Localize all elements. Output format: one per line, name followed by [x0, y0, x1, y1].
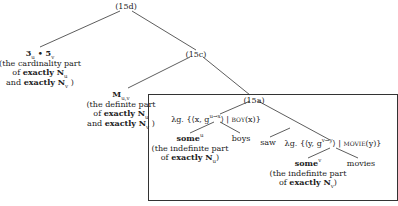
definite-formula: Mu,v [86, 90, 155, 100]
node-definite: Mu,v (the definite part of exactly Nu an… [86, 90, 155, 128]
node-15d: (15d) [115, 2, 137, 12]
node-15c-label: (15c) [186, 50, 207, 59]
node-cardinality: 3u • 5v (the cardinality part of exactly… [0, 49, 81, 87]
node-boys: boys [232, 134, 251, 144]
node-object-np: λg. {⟨y, gv→y⟩ | movie(y)} [285, 139, 382, 149]
some-u-gloss-2: of exactly Nu) [152, 153, 229, 163]
node-some-v: somev (the indefinite part of exactly Nv… [270, 159, 347, 188]
node-some-u: someu (the indefinite part of exactly Nu… [152, 134, 229, 163]
some-v-gloss-2: of exactly Nv) [270, 178, 347, 188]
cardinality-formula: 3u • 5v [0, 49, 81, 59]
some-v-word: somev [270, 159, 347, 169]
node-saw: saw [260, 138, 276, 148]
some-u-word: someu [152, 134, 229, 144]
cardinality-gloss-3: and exactly Nv ) [0, 78, 81, 88]
node-15d-label: (15d) [115, 2, 137, 11]
node-15a-label: (15a) [243, 96, 264, 105]
node-subject-np: λg. {⟨x, gu→x⟩ | boy(x)} [171, 115, 261, 125]
node-movies: movies [347, 159, 375, 169]
node-15a: (15a) [243, 96, 264, 106]
definite-gloss-3: and exactly Nv ) [86, 119, 155, 129]
node-15c: (15c) [186, 50, 207, 60]
